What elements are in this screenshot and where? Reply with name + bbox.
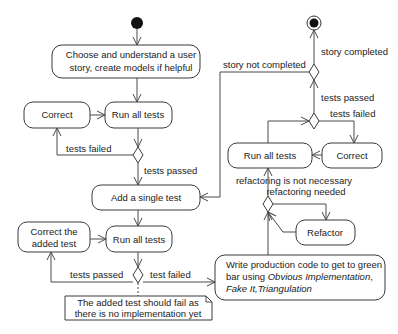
node-correct-right: Correct bbox=[322, 143, 382, 168]
node-label: added test bbox=[32, 238, 77, 249]
decision-story bbox=[309, 64, 319, 80]
text-span: , bbox=[370, 271, 373, 282]
edge-label: refactoring is not necessary bbox=[236, 175, 352, 186]
decision-refactor bbox=[263, 196, 273, 212]
end-node bbox=[307, 16, 321, 30]
edge-label: test failed bbox=[150, 269, 191, 280]
edge-label: tests passed bbox=[144, 165, 197, 176]
tdd-activity-diagram: Choose and understand a user story, crea… bbox=[0, 0, 398, 334]
edge-label: tests passed bbox=[321, 92, 374, 103]
edge-label: refactoring needed bbox=[266, 186, 345, 197]
node-label: Correct the bbox=[31, 226, 78, 237]
edge-label: tests passed bbox=[70, 269, 123, 280]
edge-refactor-decision3 bbox=[268, 212, 296, 232]
node-label: Run all tests bbox=[244, 150, 297, 161]
node-label: Fake It,Triangulation bbox=[226, 283, 312, 294]
text-span-italic: Obvious Implementation bbox=[268, 271, 370, 282]
node-run-tests-1: Run all tests bbox=[105, 102, 172, 128]
node-correct-added-test: Correct the added test bbox=[18, 222, 90, 252]
edge-decision4-correct bbox=[319, 121, 354, 143]
text-span: bar using bbox=[226, 271, 268, 282]
node-label: Refactor bbox=[307, 227, 343, 238]
note-text: The added test should fail as bbox=[77, 297, 199, 308]
start-node bbox=[131, 17, 143, 29]
decision-2 bbox=[133, 267, 143, 283]
note-text: there is no implementation yet bbox=[75, 308, 202, 319]
node-label: Choose and understand a user bbox=[66, 49, 196, 60]
node-write-production-code: Write production code to get to green ba… bbox=[215, 255, 385, 300]
node-label: story, create models if helpful bbox=[70, 62, 193, 73]
node-correct-left: Correct bbox=[24, 102, 90, 128]
node-label: Run all tests bbox=[113, 234, 166, 245]
node-label: Correct bbox=[41, 109, 73, 120]
node-run-tests-3: Run all tests bbox=[228, 143, 312, 168]
node-label: Write production code to get to green bbox=[226, 259, 382, 270]
node-run-tests-2: Run all tests bbox=[106, 226, 172, 252]
edge-run3-decision4 bbox=[268, 121, 309, 143]
note: The added test should fail as there is n… bbox=[65, 296, 212, 320]
decision-tests bbox=[309, 113, 319, 129]
node-label: Run all tests bbox=[112, 109, 165, 120]
node-refactor: Refactor bbox=[296, 220, 355, 245]
edge-decision3-refactor bbox=[273, 204, 326, 220]
edge-label: story not completed bbox=[223, 59, 306, 70]
node-add-test: Add a single test bbox=[92, 185, 200, 210]
decision-1 bbox=[133, 147, 143, 163]
edge-label: tests failed bbox=[66, 143, 111, 154]
node-label: Add a single test bbox=[111, 192, 182, 203]
edge-label: tests failed bbox=[330, 108, 375, 119]
node-label: bar using Obvious Implementation, bbox=[226, 271, 373, 282]
node-label: Correct bbox=[336, 150, 368, 161]
node-choose-story: Choose and understand a user story, crea… bbox=[52, 45, 200, 78]
edge-label: story completed bbox=[321, 46, 388, 57]
